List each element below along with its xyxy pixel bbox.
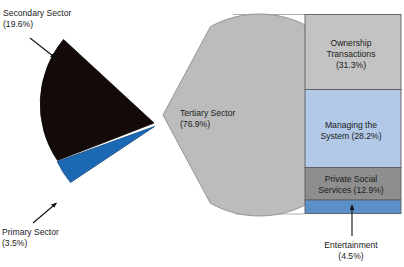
ownership-line1: Ownership bbox=[330, 38, 371, 48]
entertainment-pct: (4.5%) bbox=[338, 251, 363, 261]
bar-label-ownership-transactions: OwnershipTransactions(31.3%) bbox=[303, 38, 399, 70]
pie-label-primary-sector: Primary Sector(3.5%) bbox=[2, 227, 59, 248]
ownership-line2: Transactions bbox=[327, 49, 376, 59]
private-social-line2: Services (12.9%) bbox=[318, 185, 383, 195]
private-social-line1: Private Social bbox=[325, 174, 378, 184]
bar-label-entertainment: Entertainment(4.5%) bbox=[303, 240, 399, 261]
arrow-secondary-sector bbox=[30, 38, 56, 58]
chart-canvas: Secondary Sector(19.6%) Primary Sector(3… bbox=[0, 0, 404, 267]
bar-label-managing-the-system: Managing theSystem (28.2%) bbox=[303, 120, 399, 142]
secondary-sector-pct: (19.6%) bbox=[3, 19, 33, 29]
pie-label-tertiary-sector: Tertiary Sector(76.9%) bbox=[180, 108, 235, 129]
primary-sector-pct: (3.5%) bbox=[2, 238, 27, 248]
pie-label-secondary-sector: Secondary Sector(19.6%) bbox=[3, 8, 71, 29]
primary-sector-name: Primary Sector bbox=[2, 227, 59, 237]
ownership-pct: (31.3%) bbox=[336, 60, 366, 70]
bar-segment-entertainment[interactable] bbox=[305, 200, 401, 214]
arrow-primary-sector bbox=[33, 203, 57, 223]
tertiary-sector-name: Tertiary Sector bbox=[180, 108, 235, 118]
managing-line1: Managing the bbox=[325, 120, 377, 130]
managing-line2: System (28.2%) bbox=[320, 131, 381, 141]
secondary-sector-name: Secondary Sector bbox=[3, 8, 71, 18]
pie-slice-secondary[interactable] bbox=[40, 40, 154, 161]
bar-label-private-social-services: Private SocialServices (12.9%) bbox=[301, 174, 401, 196]
entertainment-line1: Entertainment bbox=[324, 240, 378, 250]
tertiary-sector-pct: (76.9%) bbox=[180, 119, 210, 129]
